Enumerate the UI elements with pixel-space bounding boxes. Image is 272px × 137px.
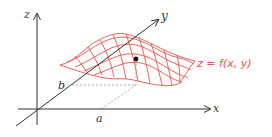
surface-equation-label: z = f(x, y) bbox=[196, 57, 251, 70]
diagram-canvas: z y x b a z = f(x, y) bbox=[0, 0, 272, 137]
a-projection-line bbox=[101, 85, 136, 109]
y-axis-label: y bbox=[160, 9, 168, 23]
b-label: b bbox=[58, 79, 65, 92]
surface-point bbox=[134, 57, 139, 62]
diagram: z y x b a z = f(x, y) bbox=[0, 0, 272, 137]
x-axis-label: x bbox=[213, 102, 220, 115]
projection-lines bbox=[72, 60, 136, 109]
a-label: a bbox=[96, 112, 103, 125]
z-axis-label: z bbox=[23, 8, 30, 21]
axes bbox=[16, 14, 210, 126]
